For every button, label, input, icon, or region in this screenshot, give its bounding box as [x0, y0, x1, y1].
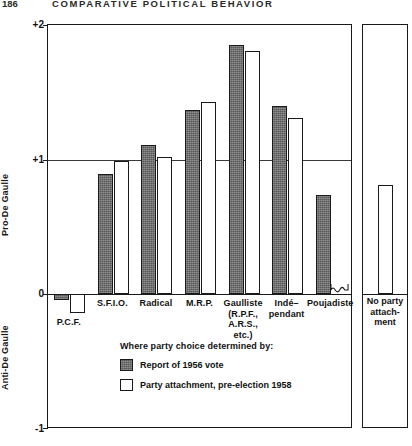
y-axis-tick-label: +1	[16, 153, 46, 164]
x-axis-label-line: pendant	[259, 309, 315, 320]
bar-report-1956-vote[interactable]	[98, 174, 113, 294]
bar-party-attachment-1958[interactable]	[245, 51, 260, 295]
bar-party-attachment-1958[interactable]	[157, 157, 172, 294]
x-axis-label: P.C.F.	[41, 317, 97, 328]
legend-item-open: Party attachment, pre-election 1958	[120, 376, 335, 393]
figure-page: 186 COMPARATIVE POLITICAL BEHAVIOR Pro-D…	[0, 0, 412, 446]
x-axis-label: Poujadiste	[302, 298, 358, 309]
bar-party-attachment-1958[interactable]	[114, 161, 129, 294]
y-axis-tick-mark	[43, 428, 48, 429]
bar-party-attachment-1958[interactable]	[201, 102, 216, 295]
legend-swatch-solid-icon	[120, 359, 133, 371]
side-panel-label-line: No party	[362, 296, 408, 307]
no-data-squiggle-icon	[330, 284, 349, 294]
running-head-title: COMPARATIVE POLITICAL BEHAVIOR	[52, 0, 273, 9]
side-panel-plot-area	[362, 24, 408, 428]
bar-report-1956-vote[interactable]	[316, 195, 331, 295]
bar-report-1956-vote[interactable]	[185, 110, 200, 294]
y-axis-tick-label: 0	[16, 288, 46, 299]
y-axis-tick-label: -1	[16, 423, 46, 434]
running-head: 186 COMPARATIVE POLITICAL BEHAVIOR	[0, 0, 412, 12]
side-panel-label-line: attach-	[362, 307, 408, 318]
bar-party-attachment-1958[interactable]	[70, 294, 85, 313]
legend-label-open: Party attachment, pre-election 1958	[140, 380, 292, 390]
x-axis-label-line: Poujadiste	[302, 298, 358, 309]
bar-no-party-attachment[interactable]	[378, 185, 393, 294]
legend-title: Where party choice determined by:	[120, 341, 335, 351]
x-axis-label-line: etc.)	[215, 330, 271, 341]
legend-item-solid: Report of 1956 vote	[120, 356, 335, 373]
x-axis-label-line: A.R.S.,	[215, 319, 271, 330]
legend-label-solid: Report of 1956 vote	[140, 360, 224, 370]
side-panel-zero-baseline	[363, 294, 407, 295]
legend-swatch-open-icon	[120, 379, 133, 391]
bar-report-1956-vote[interactable]	[272, 106, 287, 295]
bar-report-1956-vote[interactable]	[229, 45, 244, 294]
bar-report-1956-vote[interactable]	[54, 294, 69, 299]
bar-party-attachment-1958[interactable]	[288, 118, 303, 294]
y-axis-tick-label: +2	[16, 19, 46, 30]
chart-legend: Where party choice determined by: Report…	[120, 341, 335, 396]
side-panel-category-label: No partyattach-ment	[362, 296, 408, 328]
x-axis-label-line: P.C.F.	[41, 317, 97, 328]
y-axis-ticks: +2+10-1	[10, 0, 46, 446]
bar-report-1956-vote[interactable]	[141, 145, 156, 294]
side-panel-label-line: ment	[362, 317, 408, 328]
